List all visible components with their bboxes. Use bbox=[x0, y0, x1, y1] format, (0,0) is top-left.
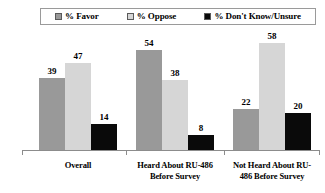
bar-dont-know-overall bbox=[91, 124, 117, 150]
bar-dont-know-heard bbox=[188, 135, 214, 150]
category-label-line2: Before Survey bbox=[126, 171, 224, 182]
category-label-line1: Heard About RU-486 bbox=[126, 160, 224, 171]
bar-value-label: 20 bbox=[285, 102, 311, 111]
bar-favor-heard bbox=[136, 50, 162, 150]
axis-tick bbox=[126, 150, 127, 155]
category-label-line1: Not Heard About RU- bbox=[224, 160, 320, 171]
category-label-overall: Overall bbox=[30, 160, 126, 171]
category-label-line2: 486 Before Survey bbox=[224, 171, 320, 182]
bar-value-label: 8 bbox=[188, 124, 214, 133]
bar-slot: 22 bbox=[233, 30, 259, 150]
bar-favor-overall bbox=[39, 78, 65, 150]
bar-group-heard: 54 38 8 bbox=[126, 30, 224, 150]
bar-group-overall: 39 47 14 bbox=[30, 30, 126, 150]
bar-value-label: 38 bbox=[162, 69, 188, 78]
bar-value-label: 54 bbox=[136, 39, 162, 48]
legend-label-oppose: % Oppose bbox=[137, 12, 176, 21]
bar-group-not-heard: 22 58 20 bbox=[224, 30, 320, 150]
bar-slot: 39 bbox=[39, 30, 65, 150]
bar-slot: 14 bbox=[91, 30, 117, 150]
legend-swatch-oppose-icon bbox=[127, 13, 134, 20]
x-axis-line bbox=[22, 150, 320, 151]
category-label-not-heard: Not Heard About RU- 486 Before Survey bbox=[224, 160, 320, 181]
category-label-heard: Heard About RU-486 Before Survey bbox=[126, 160, 224, 181]
bar-oppose-overall bbox=[65, 63, 91, 150]
legend-label-dont-know: % Don't Know/Unsure bbox=[214, 12, 300, 21]
bar-slot: 58 bbox=[259, 30, 285, 150]
bar-slot: 20 bbox=[285, 30, 311, 150]
bar-slot: 38 bbox=[162, 30, 188, 150]
legend-item-dont-know: % Don't Know/Unsure bbox=[204, 12, 300, 21]
bar-value-label: 58 bbox=[259, 32, 285, 41]
bar-value-label: 14 bbox=[91, 113, 117, 122]
legend-swatch-dont-know-icon bbox=[204, 13, 211, 20]
legend-item-favor: % Favor bbox=[55, 12, 99, 21]
bar-slot: 8 bbox=[188, 30, 214, 150]
legend-item-oppose: % Oppose bbox=[127, 12, 176, 21]
bar-value-label: 47 bbox=[65, 52, 91, 61]
plot-area: 39 47 14 54 38 bbox=[30, 30, 320, 150]
bar-oppose-not-heard bbox=[259, 43, 285, 150]
axis-tick bbox=[319, 150, 320, 155]
bar-oppose-heard bbox=[162, 80, 188, 150]
bar-slot: 47 bbox=[65, 30, 91, 150]
bar-slot: 54 bbox=[136, 30, 162, 150]
axis-tick bbox=[224, 150, 225, 155]
legend-swatch-favor-icon bbox=[55, 13, 62, 20]
bar-dont-know-not-heard bbox=[285, 113, 311, 150]
chart-legend: % Favor % Oppose % Don't Know/Unsure bbox=[40, 8, 316, 25]
category-label-line1: Overall bbox=[30, 160, 126, 171]
legend-label-favor: % Favor bbox=[65, 12, 99, 21]
bar-value-label: 39 bbox=[39, 67, 65, 76]
bar-chart: % Favor % Oppose % Don't Know/Unsure 39 … bbox=[0, 0, 325, 193]
bar-favor-not-heard bbox=[233, 109, 259, 150]
axis-tick bbox=[22, 150, 23, 155]
bar-value-label: 22 bbox=[233, 98, 259, 107]
